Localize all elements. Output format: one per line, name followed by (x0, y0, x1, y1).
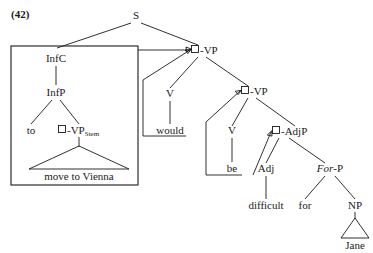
node-np: NP (348, 199, 362, 211)
edge-vpupper-to-vp-lower (206, 57, 248, 86)
node-infc: InfC (46, 52, 66, 64)
edge-s-to-infc (57, 23, 131, 48)
node-adjp: -AdjP (281, 125, 307, 137)
arrowhead-adj-to-adjp (267, 131, 272, 136)
node-v-be: V (228, 124, 236, 136)
node-difficult: difficult (248, 199, 283, 211)
edge-vpupper-to-v-would (170, 57, 198, 88)
edge-forp-to-np (335, 176, 355, 199)
edge-infp-to-to (31, 100, 52, 124)
node-to: to (27, 124, 36, 136)
null-head-square-vpstem (59, 126, 66, 133)
tree-diagram-svg: (42) S InfC InfP to -VPStem move to Vien… (0, 0, 373, 253)
null-head-square-adjp (273, 127, 280, 134)
edge-infp-to-vpstem (60, 100, 79, 124)
node-for: for (299, 199, 312, 211)
node-adj: Adj (258, 162, 275, 174)
edge-adjp-to-forp (289, 138, 325, 163)
triangle-move-to-vienna (29, 146, 129, 169)
node-infp: InfP (47, 86, 66, 98)
null-head-square-vp-upper (192, 46, 199, 53)
edge-adjp-to-adj (266, 138, 279, 163)
edge-vplower-to-adjp (256, 98, 295, 126)
syntax-tree-figure: (42) S InfC InfP to -VPStem move to Vien… (0, 0, 373, 253)
node-would: would (156, 124, 184, 136)
node-jane: Jane (345, 239, 365, 251)
example-number: (42) (11, 8, 30, 21)
node-s: S (133, 9, 139, 21)
edge-vplower-to-v-be (232, 98, 248, 126)
node-move-to-vienna: move to Vienna (44, 170, 114, 182)
node-vp-lower: -VP (250, 85, 268, 97)
triangle-jane (341, 218, 369, 238)
null-head-square-vp-lower (242, 87, 249, 94)
edge-s-to-vp-upper (141, 23, 198, 45)
edge-forp-to-for (305, 176, 325, 199)
node-vp-stem-label: -VPStem (67, 124, 100, 138)
node-vp-upper: -VP (200, 44, 218, 56)
node-v-would: V (166, 87, 174, 99)
node-for-p: For-P (316, 162, 343, 174)
node-be: be (227, 162, 238, 174)
